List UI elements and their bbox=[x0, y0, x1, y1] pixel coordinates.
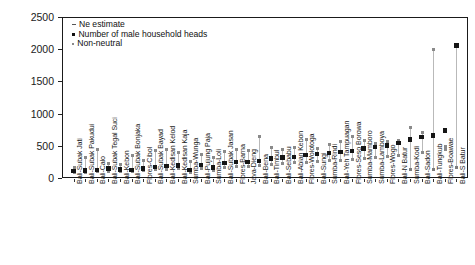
x-tick-label: Bali-Subak Bonjaka bbox=[134, 124, 142, 184]
x-tick-mark bbox=[178, 179, 179, 182]
ne-estimate-upper-marker bbox=[351, 135, 354, 138]
ne-estimate-lower-marker bbox=[316, 160, 319, 163]
x-tick-mark bbox=[375, 179, 376, 182]
ne-estimate-upper-marker bbox=[84, 156, 87, 159]
error-bar bbox=[410, 128, 411, 170]
y-tick-label: 2000 bbox=[20, 43, 54, 55]
x-tick-mark bbox=[317, 179, 318, 182]
x-tick-mark bbox=[97, 179, 98, 182]
x-tick-label: Sumba-Wunga bbox=[192, 138, 200, 184]
x-tick-mark bbox=[387, 179, 388, 182]
ne-estimate-upper-marker bbox=[281, 148, 284, 151]
x-tick-mark bbox=[224, 179, 225, 182]
x-tick-mark bbox=[294, 179, 295, 182]
x-tick-mark bbox=[259, 179, 260, 182]
ne-estimate-lower-marker bbox=[235, 165, 238, 168]
x-tick-label: Sumba-Kodi bbox=[413, 146, 421, 184]
x-tick-mark bbox=[108, 179, 109, 182]
x-tick-label: Bali-N Batur bbox=[401, 147, 409, 184]
ne-estimate-upper-marker bbox=[177, 151, 180, 154]
x-tick-label: Bali-Bena bbox=[262, 154, 270, 184]
x-tick-label: Flores-Wolotoga bbox=[308, 134, 316, 184]
x-tick-mark bbox=[445, 179, 446, 182]
x-tick-mark bbox=[340, 179, 341, 182]
x-tick-mark bbox=[329, 179, 330, 182]
ne-estimate-upper-marker bbox=[432, 48, 435, 51]
x-tick-label: Flores-Cibol bbox=[146, 147, 154, 184]
x-tick-mark bbox=[248, 179, 249, 182]
x-tick-mark bbox=[271, 179, 272, 182]
x-tick-label: Bali-Kedisan Kelod bbox=[169, 126, 177, 184]
x-tick-label: Sumba-Rindi bbox=[331, 144, 339, 184]
legend-tiny-icon bbox=[72, 43, 74, 45]
non-neutral-marker bbox=[409, 168, 412, 171]
ne-estimate-upper-marker bbox=[119, 163, 122, 166]
x-tick-label: Bali-Subak Jasan bbox=[227, 130, 235, 184]
x-tick-label: Bali-Calo bbox=[99, 156, 107, 184]
x-tick-mark bbox=[433, 179, 434, 182]
x-tick-mark bbox=[143, 179, 144, 182]
x-tick-mark bbox=[166, 179, 167, 182]
x-tick-mark bbox=[213, 179, 214, 182]
legend-dash-icon bbox=[72, 24, 76, 25]
x-tick-mark bbox=[236, 179, 237, 182]
non-neutral-marker bbox=[432, 168, 435, 171]
x-tick-label: Sumba-Loli bbox=[215, 149, 223, 184]
x-tick-mark bbox=[120, 179, 121, 182]
ne-estimate-lower-marker bbox=[200, 167, 203, 170]
x-tick-label: Java-Dieng bbox=[250, 149, 258, 184]
x-tick-label: Bali-Subak Pakudui bbox=[88, 124, 96, 184]
y-tick-label: 2500 bbox=[20, 11, 54, 23]
x-tick-label: Bali-Sadon bbox=[424, 150, 432, 184]
ne-estimate-lower-marker bbox=[177, 167, 180, 170]
male-household-heads-point bbox=[419, 135, 423, 139]
ne-estimate-upper-marker bbox=[142, 159, 145, 162]
ne-estimate-lower-marker bbox=[351, 158, 354, 161]
y-tick-label: 1500 bbox=[20, 75, 54, 87]
x-tick-label: Bali-Timbul bbox=[273, 150, 281, 184]
ne-estimate-upper-marker bbox=[165, 148, 168, 151]
x-tick-mark bbox=[282, 179, 283, 182]
x-tick-mark bbox=[410, 179, 411, 182]
x-tick-mark bbox=[306, 179, 307, 182]
x-tick-label: Bali-Kebon bbox=[123, 150, 131, 184]
error-bar bbox=[306, 139, 307, 162]
chart-legend: Ne estimateNumber of male household head… bbox=[72, 20, 207, 49]
x-tick-label: Bali-Subak Bayad bbox=[157, 129, 165, 184]
x-tick-mark bbox=[155, 179, 156, 182]
x-tick-mark bbox=[456, 179, 457, 182]
x-tick-mark bbox=[422, 179, 423, 182]
non-neutral-marker bbox=[455, 166, 458, 169]
legend-item-label: Non-neutral bbox=[77, 39, 122, 49]
y-tick-label: 1000 bbox=[20, 108, 54, 120]
y-tick-label: 500 bbox=[20, 140, 54, 152]
x-tick-label: Flores-Seso Borowa bbox=[355, 122, 363, 184]
ne-estimate-lower-marker bbox=[293, 161, 296, 164]
x-tick-label: Bali-Yeh Tampuagan bbox=[343, 121, 351, 184]
chart-figure: Effective size (Ne) 05001000150020002500… bbox=[0, 0, 475, 265]
x-tick-label: Bali-Subak Tegal Suci bbox=[111, 117, 119, 184]
x-tick-label: Sumba-Mamboro bbox=[366, 130, 374, 184]
x-tick-mark bbox=[190, 179, 191, 182]
x-tick-mark bbox=[398, 179, 399, 182]
ne-estimate-lower-marker bbox=[374, 156, 377, 159]
ne-estimate-upper-marker bbox=[258, 135, 261, 138]
x-tick-label: Bali-S Batur bbox=[459, 147, 467, 184]
y-tick-label: 0 bbox=[20, 172, 54, 184]
x-tick-label: Bali-Sebabu bbox=[285, 146, 293, 184]
ne-estimate-lower-marker bbox=[339, 159, 342, 162]
ne-estimate-lower-marker bbox=[258, 164, 261, 167]
x-tick-mark bbox=[201, 179, 202, 182]
ne-estimate-upper-marker bbox=[293, 146, 296, 149]
male-household-heads-point bbox=[443, 128, 447, 132]
x-tick-label: Bali-Abian Kebon bbox=[297, 131, 305, 184]
x-tick-label: Bali-Tungkub bbox=[436, 144, 444, 184]
x-tick-label: Bali-Subak Jati bbox=[76, 138, 84, 184]
ne-estimate-upper-marker bbox=[235, 148, 238, 151]
ne-estimate-lower-marker bbox=[281, 162, 284, 165]
ne-estimate-upper-marker bbox=[409, 126, 412, 129]
ne-estimate-upper-marker bbox=[223, 150, 226, 153]
male-household-heads-point bbox=[454, 43, 458, 47]
male-household-heads-point bbox=[431, 133, 435, 137]
error-bar bbox=[433, 49, 434, 170]
